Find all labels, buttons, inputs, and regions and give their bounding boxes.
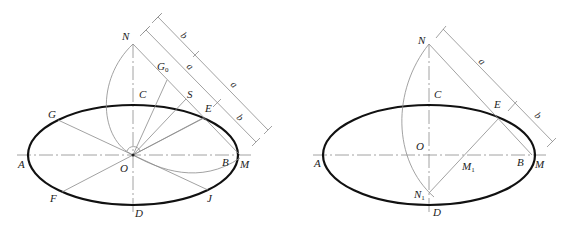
left-label-G: G: [48, 108, 56, 120]
right-label-E: E: [493, 98, 501, 110]
left-label-A: A: [17, 158, 25, 170]
left-label-E: E: [204, 102, 212, 114]
left-label-D: D: [134, 207, 143, 219]
right-figure: a b N C E A O B M M1 N1 D: [313, 26, 556, 218]
left-label-B: B: [222, 156, 229, 168]
right-ext-1: [436, 26, 446, 38]
left-label-J: J: [207, 192, 213, 204]
ellipse-construction-diagram: b a a b N G0 C S E G A O B M F D J a b: [0, 0, 569, 228]
right-dim-b: b: [533, 110, 544, 121]
left-dim-inner-a: a: [185, 61, 196, 72]
left-dim-inner: [146, 30, 256, 142]
left-figure: b a a b N G0 C S E G A O B M F D J: [17, 13, 272, 219]
left-label-C: C: [139, 88, 147, 100]
right-label-M1: M1: [461, 160, 475, 174]
right-tick-mid: [508, 101, 517, 111]
right-tick-end: [547, 138, 556, 147]
right-line-EN1: [429, 118, 499, 193]
left-dim-outer-b: b: [179, 30, 190, 41]
left-tick-inner-mid: [213, 99, 221, 107]
right-label-O: O: [416, 140, 424, 152]
right-label-A: A: [313, 157, 321, 169]
left-center-point: [132, 154, 135, 157]
right-dim-outer: [443, 29, 553, 142]
right-label-N1: N1: [413, 188, 425, 202]
left-label-F: F: [49, 192, 57, 204]
left-label-O: O: [120, 162, 128, 174]
left-angle-mark: [127, 147, 140, 151]
left-label-S: S: [187, 88, 193, 100]
right-label-C: C: [434, 88, 442, 100]
left-dim-outer: [158, 17, 268, 130]
left-label-M: M: [239, 158, 250, 170]
left-dim-outer-a: a: [229, 79, 240, 90]
right-label-B: B: [517, 156, 524, 168]
left-label-G0: G0: [157, 60, 169, 74]
right-label-N: N: [417, 34, 426, 46]
right-label-M: M: [534, 158, 545, 170]
left-dim-inner-b: b: [235, 112, 246, 123]
right-label-D: D: [432, 206, 441, 218]
left-label-N: N: [121, 30, 130, 42]
